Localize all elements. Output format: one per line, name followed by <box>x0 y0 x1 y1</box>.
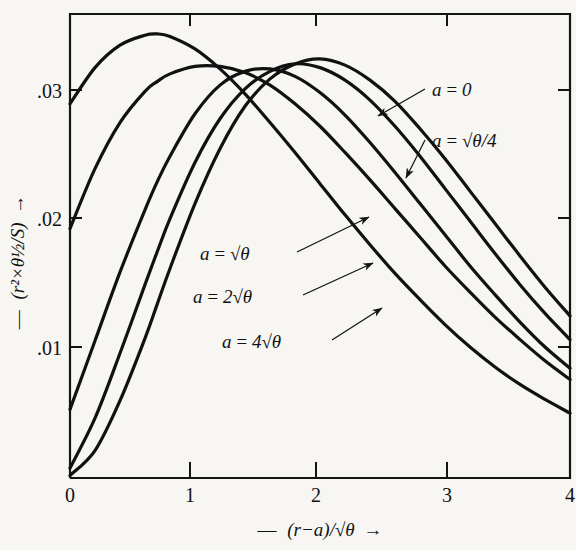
y-title-dash: — <box>7 309 28 330</box>
x-axis-ticks <box>70 14 570 478</box>
x-tick-label-2: 2 <box>311 484 321 506</box>
x-tick-label-0: 0 <box>65 484 75 506</box>
curve-a-sqrt-theta <box>70 69 570 410</box>
figure-container: 0 1 2 3 4 .01 .02 .03 <box>0 0 576 550</box>
chart-plot: 0 1 2 3 4 .01 .02 .03 <box>0 0 576 550</box>
y-axis-title: — (r²×θ½/S) → <box>7 195 29 330</box>
y-title-arrow: → <box>7 195 28 214</box>
x-tick-label-1: 1 <box>185 484 195 506</box>
annotation-leaders <box>297 89 425 340</box>
svg-text:— (r−a)/√θ →: — (r−a)/√θ → <box>257 519 383 541</box>
annotation-a-sqrt-theta: a = √θ <box>200 243 250 264</box>
leader-a-4-sqrt-theta <box>332 308 382 340</box>
y-axis-ticks <box>70 90 570 347</box>
x-title-dash: — <box>257 519 278 540</box>
plot-frame <box>70 14 570 478</box>
leader-a-sqrt-theta <box>297 217 369 252</box>
annotation-a-2-sqrt-theta: a = 2√θ <box>193 286 252 307</box>
leader-a-2-sqrt-theta <box>303 263 373 295</box>
y-title-body: (r²×θ½/S) <box>7 223 29 300</box>
x-title-body: (r−a)/√θ <box>287 519 354 541</box>
annotation-a-0: a = 0 <box>432 79 472 100</box>
curve-a-4-sqrt-theta <box>70 59 570 476</box>
y-tick-label-01: .01 <box>37 337 62 359</box>
y-tick-label-03: .03 <box>37 80 62 102</box>
annotation-a-sqrt-theta-over-4: a = √θ/4 <box>432 130 497 151</box>
svg-text:— (r²×θ½/S) →: — (r²×θ½/S) → <box>7 195 29 330</box>
x-axis-title: — (r−a)/√θ → <box>257 519 383 541</box>
x-tick-label-4: 4 <box>565 484 575 506</box>
y-tick-label-02: .02 <box>37 208 62 230</box>
x-title-arrow: → <box>363 519 382 540</box>
curve-group <box>70 34 570 476</box>
x-tick-label-3: 3 <box>442 484 452 506</box>
annotation-a-4-sqrt-theta: a = 4√θ <box>222 331 281 352</box>
